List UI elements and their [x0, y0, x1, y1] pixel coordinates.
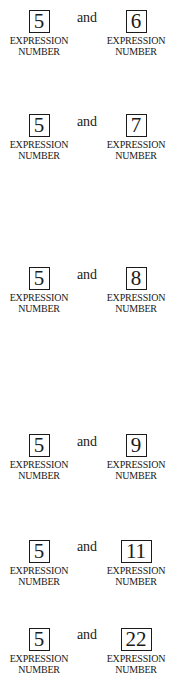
number-pair-5-and-8: 5 EXPRESSION NUMBER and 8 EXPRESSION NUM…	[0, 267, 181, 327]
right-expression-number: 7 EXPRESSION NUMBER	[104, 114, 168, 161]
label-line1: EXPRESSION	[7, 566, 71, 576]
label-line1: EXPRESSION	[7, 140, 71, 150]
label-line1: EXPRESSION	[104, 36, 168, 46]
number-box: 5	[29, 628, 50, 651]
left-expression-number: 5 EXPRESSION NUMBER	[7, 540, 71, 587]
number-box: 8	[126, 267, 147, 290]
label-line2: NUMBER	[7, 47, 71, 57]
left-expression-number: 5 EXPRESSION NUMBER	[7, 114, 71, 161]
left-expression-number: 5 EXPRESSION NUMBER	[7, 267, 71, 314]
left-expression-number: 5 EXPRESSION NUMBER	[7, 628, 71, 675]
conjunction: and	[75, 540, 99, 554]
conjunction: and	[75, 268, 99, 282]
number-pair-5-and-6: 5 EXPRESSION NUMBER and 6 EXPRESSION NUM…	[0, 10, 181, 70]
left-expression-number: 5 EXPRESSION NUMBER	[7, 434, 71, 481]
conjunction: and	[75, 11, 99, 25]
number-pair-5-and-7: 5 EXPRESSION NUMBER and 7 EXPRESSION NUM…	[0, 114, 181, 174]
number-box: 11	[121, 540, 152, 563]
number-box: 5	[29, 114, 50, 137]
label-line2: NUMBER	[7, 665, 71, 675]
label-line1: EXPRESSION	[104, 460, 168, 470]
label-line2: NUMBER	[7, 151, 71, 161]
number-box: 22	[121, 628, 152, 651]
number-box: 5	[29, 267, 50, 290]
number-box: 6	[126, 10, 147, 33]
label-line2: NUMBER	[7, 471, 71, 481]
number-pair-5-and-9: 5 EXPRESSION NUMBER and 9 EXPRESSION NUM…	[0, 434, 181, 494]
right-expression-number: 8 EXPRESSION NUMBER	[104, 267, 168, 314]
number-box: 7	[126, 114, 147, 137]
right-expression-number: 6 EXPRESSION NUMBER	[104, 10, 168, 57]
label-line2: NUMBER	[104, 471, 168, 481]
right-expression-number: 11 EXPRESSION NUMBER	[104, 540, 168, 587]
right-expression-number: 9 EXPRESSION NUMBER	[104, 434, 168, 481]
label-line1: EXPRESSION	[7, 460, 71, 470]
conjunction: and	[75, 115, 99, 129]
number-box: 9	[126, 434, 147, 457]
number-box: 5	[29, 434, 50, 457]
label-line2: NUMBER	[104, 304, 168, 314]
number-box: 5	[29, 540, 50, 563]
label-line2: NUMBER	[104, 47, 168, 57]
label-line2: NUMBER	[7, 577, 71, 587]
label-line2: NUMBER	[104, 577, 168, 587]
label-line1: EXPRESSION	[7, 36, 71, 46]
number-pair-5-and-22: 5 EXPRESSION NUMBER and 22 EXPRESSION NU…	[0, 628, 181, 688]
number-pair-5-and-11: 5 EXPRESSION NUMBER and 11 EXPRESSION NU…	[0, 540, 181, 600]
label-line2: NUMBER	[104, 665, 168, 675]
label-line1: EXPRESSION	[7, 654, 71, 664]
label-line1: EXPRESSION	[104, 654, 168, 664]
conjunction: and	[75, 435, 99, 449]
left-expression-number: 5 EXPRESSION NUMBER	[7, 10, 71, 57]
label-line1: EXPRESSION	[104, 140, 168, 150]
number-box: 5	[29, 10, 50, 33]
label-line2: NUMBER	[7, 304, 71, 314]
label-line1: EXPRESSION	[104, 566, 168, 576]
label-line1: EXPRESSION	[7, 293, 71, 303]
label-line1: EXPRESSION	[104, 293, 168, 303]
right-expression-number: 22 EXPRESSION NUMBER	[104, 628, 168, 675]
conjunction: and	[75, 628, 99, 642]
label-line2: NUMBER	[104, 151, 168, 161]
